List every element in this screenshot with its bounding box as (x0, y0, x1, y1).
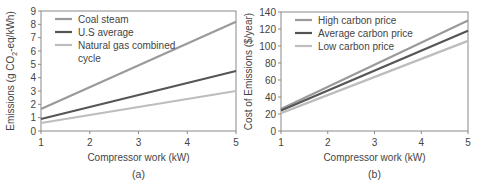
y-tick-label: 3 (30, 86, 36, 97)
y-tick-label: 8 (30, 19, 36, 30)
x-tick-label: 5 (233, 137, 239, 148)
x-tick-label: 4 (418, 137, 424, 148)
plot-frame (41, 11, 236, 131)
y-tick-label: 2 (30, 99, 36, 110)
legend-label: Natural gas combined (78, 40, 175, 51)
y-tick-label: 6 (30, 46, 36, 57)
y-tick-label: 20 (265, 109, 277, 120)
y-tick-label: 9 (30, 6, 36, 17)
y-tick-label: 120 (259, 24, 276, 35)
x-tick-label: 3 (136, 137, 142, 148)
y-tick-label: 80 (265, 58, 277, 69)
x-tick-label: 4 (184, 137, 190, 148)
x-axis-label: Compressor work (kW) (323, 152, 425, 163)
y-tick-label: 60 (265, 75, 277, 86)
y-tick-label: 1 (30, 112, 36, 123)
legend-label: cycle (78, 53, 101, 64)
x-tick-label: 1 (38, 137, 44, 148)
x-axis-label: Compressor work (kW) (87, 152, 189, 163)
figure: 012345678912345Coal steamU.S averageNatu… (0, 0, 486, 187)
y-tick-label: 0 (30, 126, 36, 137)
panel-label: (a) (132, 168, 145, 180)
legend-label: U.S average (78, 27, 134, 38)
y-tick-label: 7 (30, 32, 36, 43)
y-tick-label: 140 (259, 7, 276, 18)
y-axis-label: Cost of Emissions ($/year) (243, 13, 254, 130)
x-tick-label: 1 (278, 137, 284, 148)
y-tick-label: 40 (265, 92, 277, 103)
x-tick-label: 2 (87, 137, 93, 148)
y-axis-label: Emissions (g CO2-eq/kWh) (5, 11, 18, 130)
legend: High carbon priceAverage carbon priceLow… (295, 15, 413, 52)
x-tick-label: 2 (325, 137, 331, 148)
chart-panel-a: 012345678912345Coal steamU.S averageNatu… (5, 6, 239, 181)
legend-label: Average carbon price (318, 28, 413, 39)
y-tick-label: 5 (30, 59, 36, 70)
y-tick-label: 100 (259, 41, 276, 52)
legend-label: Coal steam (78, 14, 129, 25)
panel-label: (b) (368, 168, 381, 180)
y-tick-label: 0 (270, 126, 276, 137)
legend-label: Low carbon price (318, 41, 395, 52)
y-tick-label: 4 (30, 72, 36, 83)
legend-label: High carbon price (318, 15, 397, 26)
x-tick-label: 3 (372, 137, 378, 148)
x-tick-label: 5 (465, 137, 471, 148)
chart-panel-b: 02040608010012014012345High carbon price… (243, 7, 471, 181)
